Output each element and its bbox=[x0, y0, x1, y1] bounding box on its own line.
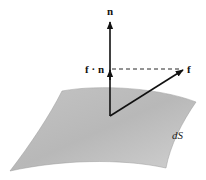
normal-label: n bbox=[107, 5, 113, 17]
projection-label: f · n bbox=[85, 63, 104, 75]
flux-diagram: n f · n f dS bbox=[0, 0, 206, 180]
vector-label: f bbox=[187, 63, 191, 75]
surface-element bbox=[10, 88, 196, 171]
surface-label: dS bbox=[172, 129, 184, 141]
